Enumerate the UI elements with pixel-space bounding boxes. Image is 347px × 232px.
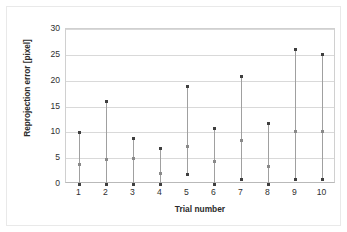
- range-line: [133, 138, 134, 184]
- range-line: [295, 50, 296, 180]
- data-point-mean: [294, 130, 297, 133]
- x-tick-label: 9: [280, 187, 310, 197]
- range-line: [214, 128, 215, 184]
- gridline: [66, 55, 334, 56]
- data-point-min: [240, 178, 243, 181]
- data-point-max: [105, 100, 108, 103]
- range-line: [322, 55, 323, 179]
- y-tick-label: 25: [20, 49, 60, 59]
- data-point-mean: [132, 157, 135, 160]
- range-line: [160, 148, 161, 184]
- x-axis-title: Trial number: [65, 204, 335, 214]
- data-point-mean: [78, 163, 81, 166]
- range-line: [241, 77, 242, 180]
- range-line: [187, 87, 188, 175]
- range-line: [106, 101, 107, 184]
- chart-frame: Reprojection error [pixel] 051015202530 …: [6, 6, 341, 226]
- data-point-min: [105, 183, 108, 186]
- data-point-min: [78, 183, 81, 186]
- x-tick-label: 10: [307, 187, 337, 197]
- data-point-min: [267, 183, 270, 186]
- data-point-max: [267, 122, 270, 125]
- plot-area: [65, 28, 335, 183]
- x-tick-label: 5: [172, 187, 202, 197]
- data-point-max: [240, 75, 243, 78]
- data-point-min: [321, 178, 324, 181]
- x-tick-label: 8: [253, 187, 283, 197]
- data-point-mean: [240, 139, 243, 142]
- data-point-max: [132, 137, 135, 140]
- y-tick-label: 5: [20, 152, 60, 162]
- data-point-min: [186, 173, 189, 176]
- data-point-min: [132, 183, 135, 186]
- data-point-max: [186, 85, 189, 88]
- x-axis-tick-labels: 12345678910: [65, 187, 335, 201]
- x-tick-label: 3: [118, 187, 148, 197]
- data-point-max: [321, 53, 324, 56]
- data-point-mean: [267, 165, 270, 168]
- y-axis-tick-labels: 051015202530: [15, 28, 60, 183]
- data-point-max: [294, 48, 297, 51]
- x-tick-label: 7: [226, 187, 256, 197]
- data-point-min: [213, 183, 216, 186]
- data-point-max: [78, 131, 81, 134]
- data-point-mean: [105, 158, 108, 161]
- data-point-max: [159, 147, 162, 150]
- x-tick-label: 2: [91, 187, 121, 197]
- gridline: [66, 29, 334, 30]
- data-point-min: [294, 178, 297, 181]
- chart-figure: Reprojection error [pixel] 051015202530 …: [0, 0, 347, 232]
- data-point-mean: [159, 172, 162, 175]
- y-tick-label: 0: [20, 178, 60, 188]
- data-point-max: [213, 127, 216, 130]
- y-tick-label: 10: [20, 126, 60, 136]
- y-tick-label: 15: [20, 101, 60, 111]
- data-point-mean: [321, 130, 324, 133]
- range-line: [79, 133, 80, 184]
- x-tick-label: 6: [199, 187, 229, 197]
- y-tick-label: 30: [20, 23, 60, 33]
- data-point-min: [159, 183, 162, 186]
- gridline: [66, 81, 334, 82]
- y-tick-label: 20: [20, 75, 60, 85]
- data-point-mean: [186, 145, 189, 148]
- data-point-mean: [213, 160, 216, 163]
- x-tick-label: 1: [64, 187, 94, 197]
- x-tick-label: 4: [145, 187, 175, 197]
- range-line: [268, 123, 269, 184]
